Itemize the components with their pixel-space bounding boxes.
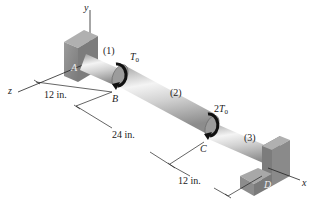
segment-label-1: (1) [103, 46, 115, 56]
point-label-b: B [112, 94, 118, 104]
support-label-a: A [71, 63, 77, 73]
point-label-c: C [200, 144, 207, 154]
support-label-d: D [264, 180, 271, 190]
shaft-segment-2 [114, 64, 215, 134]
dimension-label-ab: 12 in. [44, 90, 67, 100]
dimension-label-cd: 12 in. [178, 176, 201, 186]
segment-label-3: (3) [244, 133, 256, 143]
torque-label-c: 2T0 [214, 104, 228, 116]
axis-label-z: z [8, 86, 12, 96]
segment-label-2: (2) [170, 88, 182, 98]
dimension-label-bc: 24 in. [112, 130, 135, 140]
axis-label-y: y [84, 3, 88, 13]
diagram-graphics [0, 0, 310, 207]
torque-label-b: T0 [130, 52, 139, 64]
axis-label-x: x [302, 178, 306, 188]
torsion-shaft-diagram: y z x A D B C (1) (2) (3) T0 2T0 12 in. … [0, 0, 310, 207]
